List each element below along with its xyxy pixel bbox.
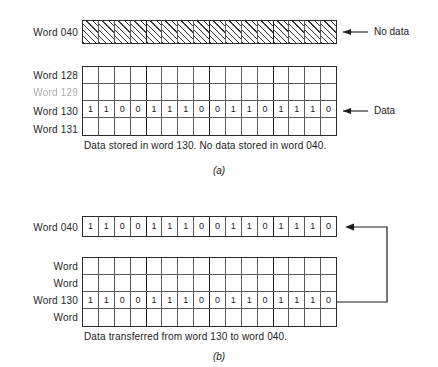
mem-a-row-1-bit-3 [131,84,147,100]
mem-a-row-1-bit-1 [99,84,115,100]
mem-a-row-2-bit-12: 1 [274,101,290,117]
word-040-a-bit-11 [258,21,274,43]
mem-b-row-3 [83,309,336,326]
mem-b-row-1-bit-0 [83,275,99,291]
mem-b-row-2-bit-8: 0 [210,292,226,308]
word-040-b-bit-12: 1 [274,217,290,236]
mem-b-row-0-bit-12 [274,258,290,274]
word-040-a-bit-2 [115,21,131,43]
mem-a-row-1-bit-12 [274,84,290,100]
mem-b-row-1-bit-7 [194,275,210,291]
mem-a-row-3-bit-5 [162,118,178,135]
mem-b-row-2: 1100111001101110 [83,292,336,309]
mem-b-row-2-bit-1: 1 [99,292,115,308]
row-label-word-b-3: Word [2,313,78,323]
mem-a-row-0-bit-0 [83,67,99,83]
mem-b-row-0-bit-5 [162,258,178,274]
mem-a-row-1-bit-2 [115,84,131,100]
word-040-a-bit-9 [226,21,242,43]
mem-b-row-0-bit-11 [258,258,274,274]
mem-b-row-1-bit-12 [274,275,290,291]
mem-a-row-0-bit-4 [147,67,163,83]
word-040-b-bit-7: 0 [194,217,210,236]
mem-a-row-2-bit-1: 1 [99,101,115,117]
word-040-a-bit-7 [194,21,210,43]
word-040-register-a [82,20,337,44]
mem-b-row-0-bit-3 [131,258,147,274]
row-label-word-040-b: Word 040 [2,223,78,233]
mem-a-row-1-bit-13 [289,84,305,100]
mem-b-row-3-bit-14 [305,309,321,326]
mem-b-row-2-bit-12: 1 [274,292,290,308]
mem-a-row-3-bit-9 [226,118,242,135]
mem-b-row-0-bit-2 [115,258,131,274]
mem-a-row-0-bit-5 [162,67,178,83]
word-040-a-bit-5 [162,21,178,43]
mem-b-row-0-bit-6 [178,258,194,274]
word-040-register-b: 1100111001101110 [82,216,337,237]
mem-b-row-2-bit-10: 1 [242,292,258,308]
mem-b-row-2-bit-7: 0 [194,292,210,308]
mem-a-row-1-bit-14 [305,84,321,100]
mem-b-row-0-bit-1 [99,258,115,274]
mem-b-row-3-bit-7 [194,309,210,326]
transfer-arrow-icon [337,224,387,303]
mem-b-row-3-bit-4 [147,309,163,326]
mem-a-row-2-bit-15: 0 [321,101,336,117]
word-040-a-bit-12 [274,21,290,43]
mem-a-row-2-bit-14: 1 [305,101,321,117]
mem-a-row-0-bit-10 [242,67,258,83]
mem-b-row-0-bit-0 [83,258,99,274]
panel-label-b: (b) [0,352,438,362]
word-040-b-bit-1: 1 [99,217,115,236]
mem-b-row-3-bit-2 [115,309,131,326]
mem-a-row-3-bit-4 [147,118,163,135]
mem-a-row-0-bit-8 [210,67,226,83]
mem-a-row-3-bit-1 [99,118,115,135]
caption-panel-a: Data stored in word 130. No data stored … [84,140,326,151]
mem-b-row-0-bit-14 [305,258,321,274]
mem-b-row-1-bit-1 [99,275,115,291]
row-label-word-131: Word 131 [2,125,78,135]
mem-a-row-2-bit-2: 0 [115,101,131,117]
mem-b-row-3-bit-0 [83,309,99,326]
mem-b-row-2-bit-14: 1 [305,292,321,308]
mem-b-row-2-bit-3: 0 [131,292,147,308]
word-040-b-bit-3: 0 [131,217,147,236]
mem-b-row-2-bit-11: 0 [258,292,274,308]
mem-b-row-0-bit-9 [226,258,242,274]
no-data-annotation-label: No data [374,27,409,37]
mem-b-row-2-bit-4: 1 [147,292,163,308]
mem-a-row-1-bit-8 [210,84,226,100]
mem-b-row-0-bit-4 [147,258,163,274]
word-040-a-bit-10 [242,21,258,43]
mem-a-row-0-bit-3 [131,67,147,83]
mem-b-row-0-bit-10 [242,258,258,274]
mem-a-row-0 [83,67,336,84]
mem-a-row-0-bit-6 [178,67,194,83]
word-040-b-bit-9: 1 [226,217,242,236]
mem-b-row-3-bit-5 [162,309,178,326]
word-040-b-bit-8: 0 [210,217,226,236]
mem-a-row-3-bit-13 [289,118,305,135]
mem-a-row-2-bit-6: 1 [178,101,194,117]
mem-a-row-2-bit-11: 0 [258,101,274,117]
mem-b-row-0-bit-13 [289,258,305,274]
mem-b-row-1-bit-14 [305,275,321,291]
word-040-b-bit-2: 0 [115,217,131,236]
mem-a-row-2-bit-10: 1 [242,101,258,117]
word-040-a-bit-4 [147,21,163,43]
word-040-a-bit-3 [131,21,147,43]
word-040-b-bit-13: 1 [289,217,305,236]
mem-a-row-1-bit-9 [226,84,242,100]
mem-a-row-0-bit-9 [226,67,242,83]
mem-b-row-1 [83,275,336,292]
mem-a-row-2-bit-8: 0 [210,101,226,117]
mem-a-row-1-bit-15 [321,84,336,100]
mem-b-row-2-bit-6: 1 [178,292,194,308]
mem-b-row-1-bit-4 [147,275,163,291]
mem-a-row-1-bit-11 [258,84,274,100]
mem-b-row-3-bit-3 [131,309,147,326]
word-040-b-bit-14: 1 [305,217,321,236]
row-label-word-b-1: Word [2,279,78,289]
